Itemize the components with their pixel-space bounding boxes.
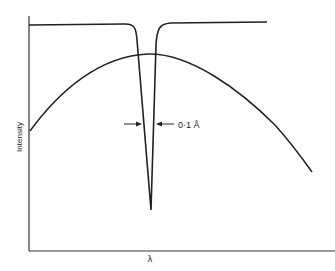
arrow-head-left-icon [136, 122, 142, 127]
chart: 0·1 Å Intensity λ [0, 0, 335, 271]
x-axis-label: λ [148, 254, 153, 264]
y-axis-label: Intensity [15, 122, 24, 152]
absorption-line-curve [29, 22, 267, 210]
broad-profile-curve [30, 54, 312, 172]
arrow-head-right-icon [156, 122, 162, 127]
annotation-label: 0·1 Å [178, 120, 200, 130]
